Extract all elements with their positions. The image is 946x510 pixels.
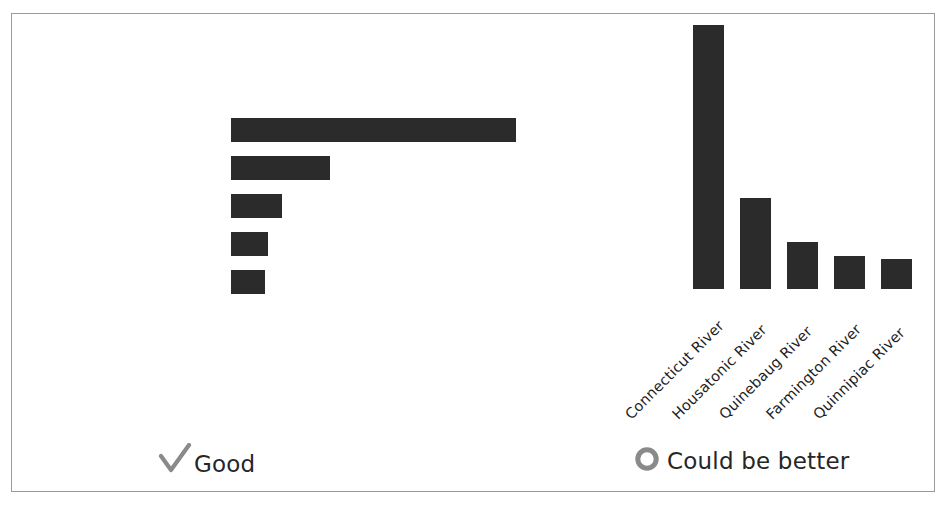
annotation-could-be-better: Could be better: [633, 445, 849, 477]
hbar-bar: [231, 232, 268, 256]
horizontal-bar-chart: Connecticut River Housatonic River Quine…: [0, 0, 560, 430]
slide-canvas: Connecticut River Housatonic River Quine…: [0, 0, 946, 510]
hbar-bar: [231, 118, 516, 142]
vbar-bar: [881, 259, 912, 289]
vbar-category-label: Quinnipiac River: [810, 324, 908, 422]
vbar-bar: [740, 198, 771, 289]
hbar-bar: [231, 156, 330, 180]
annotation-good-label: Good: [194, 451, 255, 477]
circle-icon: [633, 445, 661, 477]
vertical-bar-chart: Connecticut River Housatonic River Quine…: [600, 0, 946, 430]
hbar-bar: [231, 270, 265, 294]
annotation-could-be-better-label: Could be better: [667, 448, 849, 474]
annotation-good: Good: [158, 443, 255, 479]
hbar-bar: [231, 194, 282, 218]
check-icon: [158, 443, 192, 479]
vbar-bar: [693, 25, 724, 289]
vbar-bar: [834, 256, 865, 289]
vbar-bar: [787, 242, 818, 289]
